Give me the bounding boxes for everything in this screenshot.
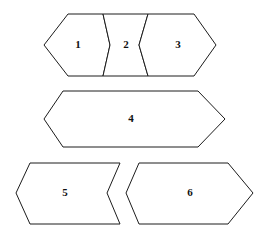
piece-1-label: 1: [75, 38, 81, 50]
piece-5-outline[interactable]: [16, 163, 120, 224]
piece-6-label: 6: [187, 186, 193, 198]
shapes-canvas: 1 2 3 4 5 6: [0, 0, 267, 237]
piece-5-group[interactable]: 5: [16, 163, 120, 224]
piece-6-group[interactable]: 6: [126, 163, 253, 224]
piece-5-label: 5: [62, 186, 68, 198]
piece-1-group[interactable]: 1: [44, 14, 110, 76]
piece-4-outline[interactable]: [44, 91, 225, 147]
piece-4-group[interactable]: 4: [44, 91, 225, 147]
polygon-pieces-figure: 1 2 3 4 5 6: [0, 0, 267, 237]
piece-3-group[interactable]: 3: [139, 14, 216, 76]
piece-4-label: 4: [128, 112, 134, 124]
piece-2-label: 2: [123, 38, 129, 50]
piece-3-label: 3: [175, 38, 181, 50]
